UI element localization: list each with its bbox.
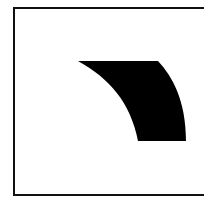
figure-canvas <box>0 0 204 213</box>
